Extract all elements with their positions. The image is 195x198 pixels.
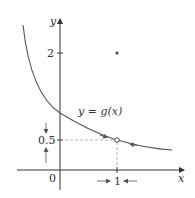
y-tick-label-2: 2 [47, 47, 54, 60]
y-axis-label: y [49, 15, 57, 28]
curve-g [23, 25, 172, 150]
x-tick-label-1: 1 [114, 175, 121, 188]
limit-graph: y x 0 2 0.5 1 y = g(x) [0, 0, 195, 198]
curve-label: y = g(x) [77, 105, 122, 118]
x-axis-label: x [178, 172, 185, 185]
filled-dot-g1 [115, 51, 118, 54]
y-tick-label-0.5: 0.5 [38, 134, 56, 147]
origin-label: 0 [49, 172, 56, 185]
open-circle-hole [115, 138, 120, 143]
